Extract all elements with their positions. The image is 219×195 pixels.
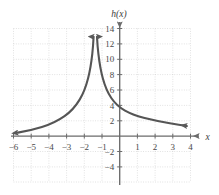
curve-right-branch <box>97 37 187 126</box>
x-tick-labels: −6 −5 −4 −3 −2 −1 1 2 3 4 <box>9 142 194 152</box>
x-tick-label: 2 <box>153 142 158 152</box>
grid-lines <box>14 29 191 183</box>
x-axis-title: x <box>204 132 210 142</box>
x-tick-label: −4 <box>44 142 54 152</box>
y-tick-label: 6 <box>110 85 115 95</box>
x-tick-label: −5 <box>26 142 36 152</box>
graph-figure: −6 −5 −4 −3 −2 −1 1 2 3 4 14 12 10 8 6 4… <box>0 0 219 195</box>
y-tick-label: −4 <box>105 162 115 172</box>
x-tick-label: 4 <box>188 142 193 152</box>
x-tick-label: −6 <box>9 142 19 152</box>
y-tick-label: 12 <box>105 39 114 49</box>
x-tick-label: −2 <box>80 142 90 152</box>
y-tick-labels: 14 12 10 8 6 4 2 −2 −4 <box>105 24 115 172</box>
y-tick-label: 2 <box>110 116 115 126</box>
y-tick-label: 10 <box>105 54 115 64</box>
x-tick-label: 3 <box>171 142 176 152</box>
x-tick-label: −3 <box>62 142 72 152</box>
curve-left-branch <box>18 37 94 133</box>
y-tick-label: −2 <box>105 147 115 157</box>
y-tick-label: 8 <box>110 70 115 80</box>
coordinate-plane: −6 −5 −4 −3 −2 −1 1 2 3 4 14 12 10 8 6 4… <box>0 0 219 195</box>
y-tick-label: 14 <box>105 24 115 34</box>
y-axis-title: h(x) <box>111 9 126 20</box>
x-tick-label: 1 <box>135 142 140 152</box>
